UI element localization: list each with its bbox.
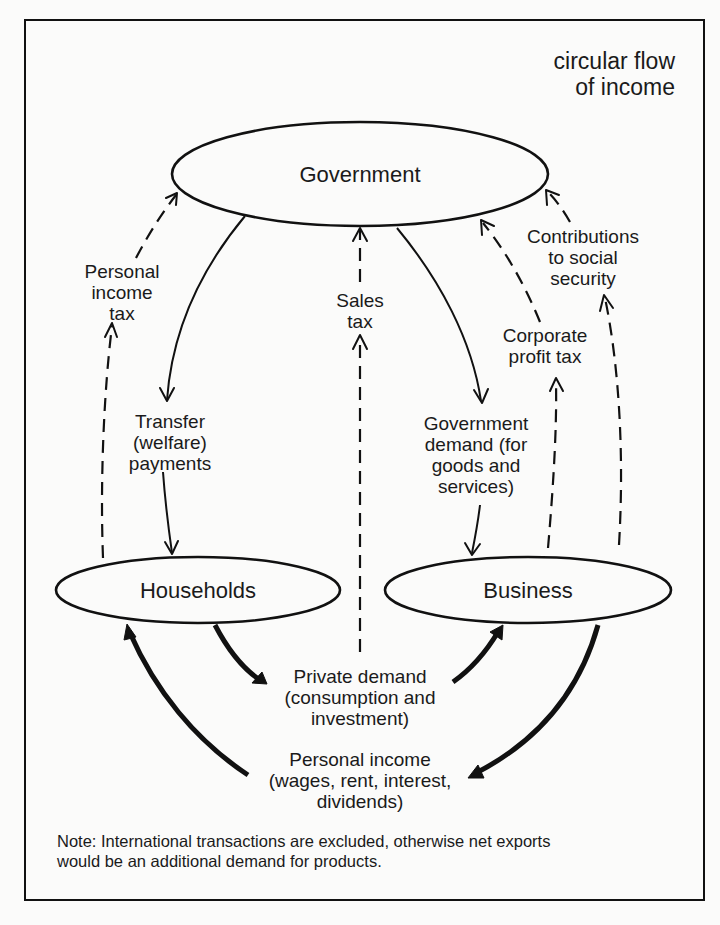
thick-arrow-right: [476, 625, 598, 773]
label-line: investment): [311, 708, 409, 729]
solid-arrow-lower: [163, 472, 172, 553]
circular-flow-diagram: circular flow of income Government House…: [0, 0, 720, 925]
arrowhead-up-icon: [166, 193, 177, 205]
node-government: Government: [172, 122, 548, 226]
label-line: to social: [548, 247, 618, 268]
arrowhead-icon: [124, 624, 136, 640]
flow-government-demand: Government demand (for goods and service…: [397, 228, 529, 555]
arrowhead-up-icon: [105, 323, 117, 337]
note-line-2: would be an additional demand for produc…: [56, 852, 382, 870]
footnote: Note: International transactions are exc…: [56, 832, 550, 870]
households-label: Households: [140, 578, 256, 603]
label-line: Transfer: [135, 411, 206, 432]
label-line: Personal income: [289, 749, 431, 770]
label-line: security: [550, 268, 616, 289]
dashed-arrow-upper: [136, 195, 176, 258]
dashed-arrow-upper: [548, 192, 570, 222]
business-label: Business: [483, 578, 572, 603]
thick-arrow-left: [215, 625, 260, 680]
title-line-1: circular flow: [554, 48, 676, 74]
dashed-arrow-lower: [548, 381, 556, 548]
thick-arrow-right: [453, 632, 498, 682]
label-line: tax: [109, 303, 135, 324]
label-line: services): [438, 476, 514, 497]
label-line: Personal: [85, 261, 160, 282]
node-households: Households: [56, 557, 340, 623]
diagram-title: circular flow of income: [554, 48, 676, 100]
title-line-2: of income: [575, 74, 675, 100]
solid-arrow-upper: [397, 228, 481, 401]
label-line: payments: [129, 453, 211, 474]
government-label: Government: [299, 162, 420, 187]
label-line: dividends): [317, 791, 404, 812]
dashed-arrow-lower: [605, 298, 621, 545]
label-line: (welfare): [133, 432, 207, 453]
label-line: Government: [424, 413, 529, 434]
solid-arrow-upper: [167, 216, 245, 400]
label-line: (consumption and: [284, 687, 435, 708]
label-line: goods and: [432, 455, 521, 476]
label-line: profit tax: [509, 346, 582, 367]
label-line: Private demand: [293, 666, 426, 687]
label-line: (wages, rent, interest,: [269, 770, 452, 791]
dashed-arrow-lower: [102, 326, 112, 558]
label-line: Contributions: [527, 226, 639, 247]
label-line: tax: [347, 311, 373, 332]
label-line: income: [91, 282, 152, 303]
flow-personal-income-tax: Personal income tax: [85, 193, 178, 558]
note-line-1: Note: International transactions are exc…: [57, 832, 550, 850]
label-line: Sales: [336, 290, 384, 311]
label-line: demand (for: [425, 434, 528, 455]
label-line: Corporate: [503, 325, 588, 346]
node-business: Business: [385, 557, 671, 623]
flow-contributions-social-security: Contributions to social security: [527, 190, 639, 545]
flow-sales-tax: Sales tax: [336, 228, 384, 652]
